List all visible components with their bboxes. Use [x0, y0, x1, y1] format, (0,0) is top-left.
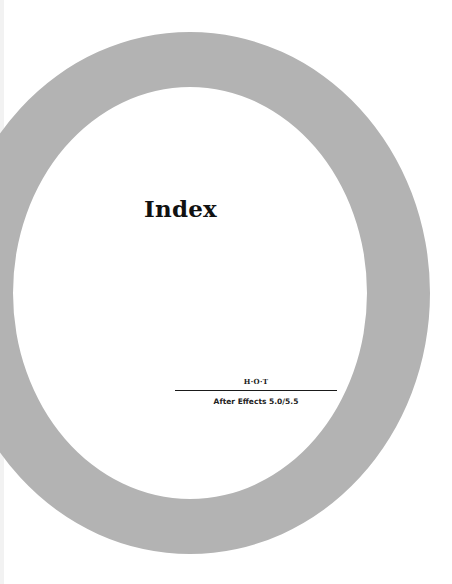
page-title: Index: [144, 196, 217, 222]
divider-rule: [175, 390, 337, 391]
decorative-ring: [0, 0, 452, 584]
ring-shape: [0, 32, 430, 554]
series-mark: H·O·T: [175, 377, 337, 386]
book-subtitle: After Effects 5.0/5.5: [175, 397, 337, 407]
